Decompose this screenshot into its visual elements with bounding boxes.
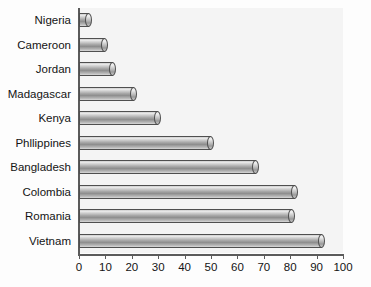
bar-row: Kenya [0, 106, 371, 131]
bar-rows: NigeriaCameroonJordanMadagascarKenyaPhll… [0, 8, 371, 253]
x-tick-mark [317, 254, 318, 259]
bar-track [79, 155, 343, 180]
bar-row: Bangladesh [0, 155, 371, 180]
bar-row: Jordan [0, 57, 371, 82]
bar [79, 185, 298, 199]
bar-body [79, 209, 292, 223]
bar-body [79, 62, 113, 76]
bar-body [79, 185, 295, 199]
bar [79, 38, 108, 52]
x-tick-mark [290, 254, 291, 259]
x-tick-mark [237, 254, 238, 259]
bar-body [79, 234, 322, 248]
bar-end-cap [318, 234, 325, 248]
bar-track [79, 82, 343, 107]
x-tick-label: 100 [333, 261, 352, 273]
category-label: Phllippines [0, 137, 71, 149]
bar-row: Colombia [0, 180, 371, 205]
x-tick-mark [211, 254, 212, 259]
bar-end-cap [291, 185, 298, 199]
bar-body [79, 87, 134, 101]
bar-track [79, 106, 343, 131]
bar-row: Cameroon [0, 33, 371, 58]
x-tick-label: 40 [178, 261, 191, 273]
x-tick-label: 0 [76, 261, 82, 273]
x-tick-label: 20 [125, 261, 138, 273]
bar-body [79, 136, 211, 150]
bar-end-cap [130, 87, 137, 101]
category-label: Kenya [0, 112, 71, 124]
x-tick-label: 10 [99, 261, 112, 273]
x-tick-label: 90 [310, 261, 323, 273]
bar-track [79, 8, 343, 33]
bar-track [79, 204, 343, 229]
x-tick-label: 60 [231, 261, 244, 273]
bar-row: Phllippines [0, 131, 371, 156]
bar-end-cap [288, 209, 295, 223]
bar [79, 160, 259, 174]
bar [79, 234, 325, 248]
bar [79, 87, 137, 101]
x-tick-mark [105, 254, 106, 259]
bar-track [79, 131, 343, 156]
category-label: Cameroon [0, 39, 71, 51]
category-label: Vietnam [0, 235, 71, 247]
category-label: Jordan [0, 63, 71, 75]
bar-body [79, 160, 256, 174]
bar-end-cap [252, 160, 259, 174]
x-tick-mark [264, 254, 265, 259]
bar-end-cap [85, 13, 92, 27]
x-tick-label: 70 [257, 261, 270, 273]
category-label: Madagascar [0, 88, 71, 100]
bar [79, 111, 161, 125]
x-tick-mark [185, 254, 186, 259]
category-label: Nigeria [0, 14, 71, 26]
x-tick-mark [132, 254, 133, 259]
bar [79, 136, 214, 150]
x-axis-ticks: 0102030405060708090100 [79, 254, 343, 280]
bar-track [79, 57, 343, 82]
bar-row: Madagascar [0, 82, 371, 107]
bar-chart: NigeriaCameroonJordanMadagascarKenyaPhll… [0, 0, 371, 287]
bar [79, 13, 92, 27]
x-tick-mark [343, 254, 344, 259]
category-label: Bangladesh [0, 161, 71, 173]
x-tick-label: 50 [205, 261, 218, 273]
x-tick-label: 80 [284, 261, 297, 273]
bar-row: Nigeria [0, 8, 371, 33]
category-label: Romania [0, 210, 71, 222]
bar [79, 209, 295, 223]
bar-body [79, 111, 158, 125]
bar-end-cap [207, 136, 214, 150]
x-tick-mark [79, 254, 80, 259]
bar-row: Romania [0, 204, 371, 229]
category-label: Colombia [0, 186, 71, 198]
bar-end-cap [101, 38, 108, 52]
bar-end-cap [154, 111, 161, 125]
bar [79, 62, 116, 76]
bar-end-cap [109, 62, 116, 76]
x-tick-label: 30 [152, 261, 165, 273]
bar-track [79, 180, 343, 205]
bar-track [79, 229, 343, 254]
bar-track [79, 33, 343, 58]
bar-row: Vietnam [0, 229, 371, 254]
x-tick-mark [158, 254, 159, 259]
